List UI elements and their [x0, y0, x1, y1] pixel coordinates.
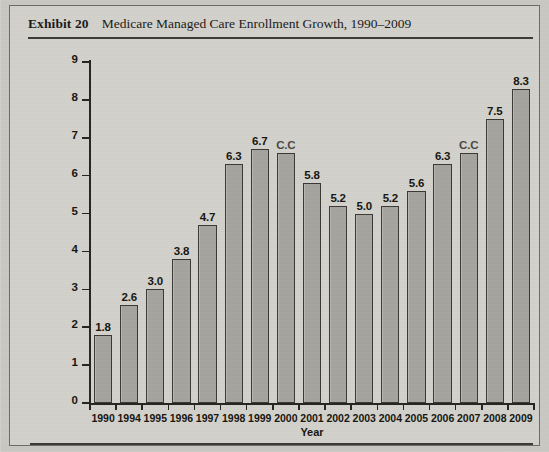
x-axis-category-label: 1997	[194, 412, 220, 424]
heading-rule-top	[28, 37, 533, 39]
x-axis-category-label: 2003	[351, 412, 377, 424]
x-axis-tick	[403, 404, 405, 410]
y-axis-tick: 5	[82, 213, 90, 215]
bar: 6.7	[251, 149, 269, 403]
exhibit-title: Medicare Managed Care Enrollment Growth,…	[102, 16, 412, 31]
y-axis-tick-label: 2	[72, 318, 78, 330]
y-axis-tick-label: 4	[72, 243, 78, 255]
x-axis-tick	[324, 404, 326, 410]
x-axis-tick	[115, 404, 117, 410]
x-axis-category-label: 2002	[325, 412, 351, 424]
x-axis-tick	[455, 404, 457, 410]
bar-value-label: 3.0	[148, 275, 163, 287]
plot-area: 1.82.63.03.84.76.36.7C.C5.85.25.05.25.66…	[90, 62, 534, 403]
bar: C.C	[460, 153, 478, 403]
y-axis-tick-label: 7	[72, 129, 78, 141]
x-axis-tick	[168, 404, 170, 410]
y-axis-tick: 9	[82, 61, 90, 63]
bar-value-label: 5.0	[357, 200, 372, 212]
bar: 3.0	[146, 289, 164, 403]
y-axis-tick-label: 8	[72, 91, 78, 103]
exhibit-heading: Exhibit 20Medicare Managed Care Enrollme…	[28, 16, 543, 39]
bar: 5.0	[355, 214, 373, 403]
bar-value-label: 6.3	[435, 150, 450, 162]
x-axis-tick	[298, 404, 300, 410]
y-axis-tick-label: 6	[72, 167, 78, 179]
x-axis-tick	[429, 404, 431, 410]
x-axis-category-label: 2006	[430, 412, 456, 424]
x-axis-tick	[246, 404, 248, 410]
y-axis-tick: 6	[82, 175, 90, 177]
x-axis-tick	[377, 404, 379, 410]
y-axis-tick: 4	[82, 251, 90, 253]
exhibit-label: Exhibit 20	[28, 16, 89, 31]
y-axis-tick: 7	[82, 137, 90, 139]
x-axis-category-label: 2008	[482, 412, 508, 424]
x-axis-category-label: 1999	[247, 412, 273, 424]
bar: 1.8	[94, 335, 112, 403]
y-axis-tick-label: 0	[72, 394, 78, 406]
x-axis-category-label: 1990	[90, 412, 116, 424]
y-axis-tick-label: 9	[72, 53, 78, 65]
bar-value-label: 5.2	[330, 192, 345, 204]
x-axis-tick	[481, 404, 483, 410]
y-axis-tick: 2	[82, 326, 90, 328]
x-axis-category-label: 2009	[508, 412, 534, 424]
x-axis-category-label: 1994	[116, 412, 142, 424]
scanned-page: Exhibit 20Medicare Managed Care Enrollme…	[0, 0, 549, 452]
x-axis-category-label: 1995	[142, 412, 168, 424]
bar: 7.5	[486, 119, 504, 403]
bar-chart: Medicare HMO and Cost Enrollment in Mill…	[28, 46, 540, 438]
y-axis-tick-label: 3	[72, 281, 78, 293]
bar-value-label: 2.6	[121, 291, 136, 303]
x-axis-line	[89, 403, 535, 405]
x-axis-category-label: 2005	[403, 412, 429, 424]
bar-value-label: 5.2	[383, 192, 398, 204]
bar-value-label: 4.7	[200, 211, 215, 223]
exhibit-frame: Exhibit 20Medicare Managed Care Enrollme…	[9, 5, 540, 446]
bar: 5.6	[407, 191, 425, 403]
x-axis-tick	[272, 404, 274, 410]
bar-value-label: 5.6	[409, 177, 424, 189]
bar-value-label: 3.8	[174, 245, 189, 257]
bar-value-label: C.C	[459, 139, 478, 151]
bar-value-label: 6.7	[252, 135, 267, 147]
bar: C.C	[277, 153, 295, 403]
x-axis-tick	[194, 404, 196, 410]
x-axis-category-label: 2000	[273, 412, 299, 424]
bar: 5.2	[329, 206, 347, 403]
bar: 5.8	[303, 183, 321, 403]
y-axis-tick-label: 1	[72, 356, 78, 368]
y-axis-tick: 1	[82, 364, 90, 366]
bar: 6.3	[433, 164, 451, 403]
x-axis-tick	[141, 404, 143, 410]
bar: 3.8	[172, 259, 190, 403]
x-axis-category-label: 1996	[168, 412, 194, 424]
bar-value-label: 8.3	[513, 75, 528, 87]
bar: 8.3	[512, 89, 530, 403]
bar: 5.2	[381, 206, 399, 403]
x-axis-category-label: 1998	[221, 412, 247, 424]
bar: 2.6	[120, 305, 138, 404]
bar-value-label: 1.8	[95, 321, 110, 333]
x-axis-tick	[350, 404, 352, 410]
x-axis-tick	[507, 404, 509, 410]
bar-value-label: 5.8	[304, 169, 319, 181]
y-axis-tick: 8	[82, 99, 90, 101]
y-axis-tick: 3	[82, 289, 90, 291]
x-axis-title: Year	[90, 426, 534, 438]
x-axis-tick	[89, 404, 91, 410]
y-axis-tick-label: 5	[72, 205, 78, 217]
bar: 6.3	[225, 164, 243, 403]
bar-value-label: 7.5	[487, 105, 502, 117]
x-axis-category-label: 2007	[456, 412, 482, 424]
x-axis-category-label: 2004	[377, 412, 403, 424]
x-axis-tick	[533, 404, 535, 410]
bar-value-label: C.C	[276, 139, 295, 151]
bar-value-label: 6.3	[226, 150, 241, 162]
footer-rule	[30, 443, 533, 445]
bar: 4.7	[198, 225, 216, 403]
x-axis-tick	[220, 404, 222, 410]
x-axis-category-label: 2001	[299, 412, 325, 424]
